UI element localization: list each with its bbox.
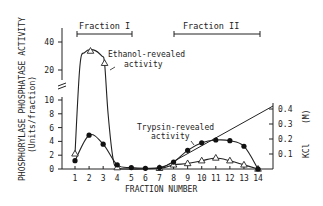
x-tick-label: 11	[211, 174, 221, 183]
y-tick-label: 0	[49, 165, 54, 174]
x-tick-label: 7	[157, 174, 162, 183]
y2-tick-label: 0.4	[278, 105, 293, 114]
x-tick-label: 6	[143, 174, 148, 183]
filled-circle-marker	[86, 133, 91, 138]
filled-circle-marker	[115, 162, 120, 167]
y-tick-label: 4	[49, 137, 54, 146]
filled-circle-marker	[171, 160, 176, 165]
y2-tick-label: 0.2	[278, 135, 293, 144]
right-tick-labels: 0.10.20.30.4	[278, 105, 293, 159]
trypsin-annotation-line1: Trypsin-revealed	[137, 123, 214, 132]
y-tick-label: 2	[49, 151, 54, 160]
axis-break-icon	[58, 83, 66, 89]
y-axis-label: PHOSPHORYLASE PHOSPHATASE ACTIVITY	[18, 17, 27, 181]
ethanol-markers	[72, 48, 262, 172]
x-tick-label: 10	[197, 174, 207, 183]
filled-circle-marker	[255, 166, 260, 171]
fraction-2-bracket	[174, 31, 260, 37]
x-tick-label: 4	[115, 174, 120, 183]
trypsin-annotation-line2: activity	[151, 132, 190, 141]
y2-axis-label-kcl: KCl	[302, 143, 311, 158]
filled-circle-marker	[129, 165, 134, 170]
x-tick-label: 12	[225, 174, 235, 183]
y-tick-label: 6	[49, 124, 54, 133]
fraction-activity-chart: 02468102040 1234567891011121314 0.10.20.…	[0, 0, 323, 206]
trypsin-annotation-arrow	[191, 141, 194, 145]
left-ticks	[58, 42, 62, 169]
right-ticks	[269, 109, 273, 154]
x-tick-label: 3	[101, 174, 106, 183]
filled-circle-marker	[157, 165, 162, 170]
x-tick-label: 1	[73, 174, 78, 183]
filled-circle-marker	[72, 158, 77, 163]
x-tick-label: 9	[185, 174, 190, 183]
ethanol-annotation-line2: activity	[124, 60, 163, 69]
x-tick-label: 2	[87, 174, 92, 183]
y-tick-label: 8	[49, 110, 54, 119]
open-triangle-marker	[101, 60, 108, 66]
y-axis-units: (Units/fraction)	[28, 76, 37, 153]
x-tick-label: 13	[239, 174, 249, 183]
filled-circle-marker	[213, 137, 218, 142]
open-triangle-marker	[72, 150, 79, 156]
y2-axis-label-unit: (M)	[302, 110, 311, 124]
filled-circle-marker	[227, 138, 232, 143]
fraction-1-label: Fraction I	[79, 21, 130, 31]
filled-circle-marker	[185, 148, 190, 153]
fraction-2-label: Fraction II	[183, 21, 239, 31]
x-tick-label: 8	[171, 174, 176, 183]
x-tick-labels: 1234567891011121314	[73, 174, 263, 183]
x-axis-label: FRACTION NUMBER	[125, 185, 197, 194]
y2-tick-label: 0.3	[278, 120, 293, 129]
ethanol-annotation-arrow	[110, 67, 115, 70]
y-tick-label: 40	[44, 38, 54, 47]
filled-circle-marker	[241, 144, 246, 149]
left-tick-labels: 02468102040	[44, 38, 54, 174]
x-tick-label: 14	[253, 174, 263, 183]
filled-circle-marker	[101, 142, 106, 147]
open-triangle-marker	[213, 154, 220, 160]
y2-tick-label: 0.1	[278, 150, 293, 159]
x-tick-label: 5	[129, 174, 134, 183]
filled-circle-marker	[199, 140, 204, 145]
filled-circle-marker	[143, 166, 148, 171]
ethanol-series-curve	[75, 50, 258, 169]
fraction-1-bracket	[77, 31, 132, 37]
ethanol-annotation-line1: Ethanol-revealed	[108, 50, 185, 59]
y-tick-label: 20	[44, 66, 54, 75]
y-tick-label: 10	[44, 96, 54, 105]
